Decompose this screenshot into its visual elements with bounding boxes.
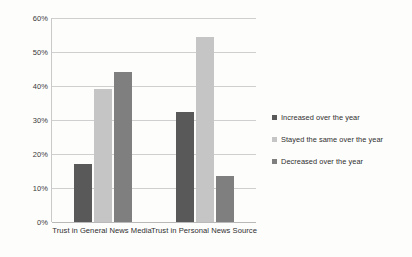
y-axis-tick-label: 60% bbox=[33, 14, 48, 23]
bar bbox=[176, 112, 194, 223]
y-axis: 0%10%20%30%40%50%60% bbox=[18, 18, 48, 222]
x-axis-labels: Trust in General News MediaTrust in Pers… bbox=[51, 226, 255, 242]
bar-chart: 0%10%20%30%40%50%60% Trust in General Ne… bbox=[0, 0, 412, 257]
legend-item[interactable]: Decreased over the year bbox=[272, 150, 412, 172]
chart-legend: Increased over the yearStayed the same o… bbox=[272, 106, 412, 172]
legend-swatch-icon bbox=[272, 115, 277, 120]
legend-swatch-icon bbox=[272, 137, 277, 142]
legend-label: Decreased over the year bbox=[281, 157, 363, 166]
y-axis-tick-label: 50% bbox=[33, 48, 48, 57]
gridline bbox=[52, 222, 256, 223]
y-axis-tick-label: 10% bbox=[33, 184, 48, 193]
bars-layer bbox=[52, 18, 256, 222]
y-axis-tick-label: 20% bbox=[33, 150, 48, 159]
y-axis-tick-label: 0% bbox=[37, 218, 48, 227]
legend-swatch-icon bbox=[272, 159, 277, 164]
bar bbox=[114, 72, 132, 222]
bar bbox=[94, 89, 112, 222]
plot-wrapper: 0%10%20%30%40%50%60% Trust in General Ne… bbox=[0, 0, 270, 257]
x-axis-category-label: Trust in Personal News Source bbox=[151, 226, 257, 235]
legend-label: Stayed the same over the year bbox=[281, 135, 383, 144]
bar bbox=[216, 176, 234, 222]
legend-item[interactable]: Stayed the same over the year bbox=[272, 128, 412, 150]
y-axis-tick-label: 30% bbox=[33, 116, 48, 125]
legend-item[interactable]: Increased over the year bbox=[272, 106, 412, 128]
y-axis-tick-label: 40% bbox=[33, 82, 48, 91]
x-axis-category-label: Trust in General News Media bbox=[52, 226, 151, 235]
bar bbox=[196, 37, 214, 222]
bar bbox=[74, 164, 92, 222]
legend-label: Increased over the year bbox=[281, 113, 360, 122]
plot-area bbox=[51, 18, 256, 222]
